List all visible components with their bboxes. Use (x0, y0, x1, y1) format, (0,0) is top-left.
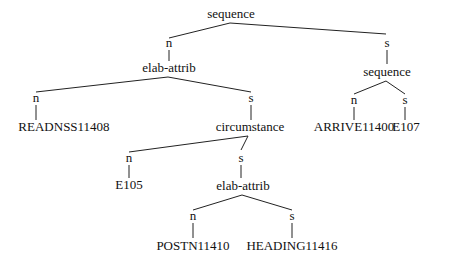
tree-node-e105: E105 (115, 177, 142, 192)
tree-node-s3: s (238, 150, 243, 165)
tree-node-s2: s (248, 90, 253, 105)
tree-node-seq2: sequence (363, 64, 411, 79)
tree-node-n3: n (126, 150, 133, 165)
tree-edge-seq2-n5 (354, 81, 386, 94)
tree-node-n2: n (33, 90, 40, 105)
tree-node-s4: s (289, 208, 294, 223)
tree-edge-circ-n3 (129, 136, 248, 152)
rst-tree-diagram: sequencenselab-attribsequencensnsREADNSS… (0, 0, 455, 274)
tree-node-elab2: elab-attrib (216, 178, 269, 193)
tree-node-n5: n (351, 92, 358, 107)
tree-node-heading: HEADING11416 (246, 238, 338, 253)
tree-edge-elab1-s2 (168, 77, 251, 92)
tree-node-elab1: elab-attrib (142, 60, 195, 75)
tree-node-postn: POSTN11410 (156, 238, 229, 253)
tree-node-n1: n (166, 35, 173, 50)
tree-node-n4: n (190, 208, 197, 223)
tree-edge-root-s1 (230, 23, 386, 34)
tree-edge-root-n1 (169, 23, 230, 38)
tree-node-readnss: READNSS11408 (18, 119, 109, 134)
tree-node-circ: circumstance (216, 119, 285, 134)
tree-edge-elab1-n2 (36, 77, 168, 92)
tree-edge-elab2-s4 (242, 195, 292, 210)
tree-node-s5: s (402, 92, 407, 107)
tree-node-root: sequence (207, 6, 255, 21)
tree-node-arrive: ARRIVE11400 (314, 119, 394, 134)
tree-node-e107: E107 (392, 119, 420, 134)
tree-nodes: sequencenselab-attribsequencensnsREADNSS… (18, 6, 420, 253)
tree-edge-elab2-n4 (193, 195, 242, 210)
tree-node-s1: s (384, 35, 389, 50)
tree-edge-circ-s3 (241, 136, 248, 150)
